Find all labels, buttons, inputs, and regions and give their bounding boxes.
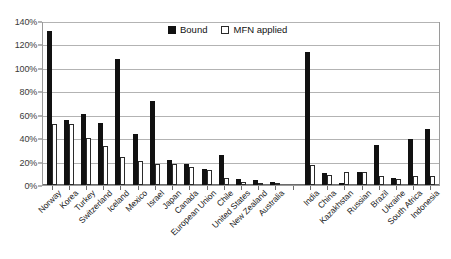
bar-mfn-applied: [138, 161, 143, 185]
bar-mfn-applied: [362, 172, 367, 185]
bar-mfn-applied: [258, 183, 263, 185]
bar-group: [336, 23, 353, 185]
bar-group: [284, 23, 301, 185]
y-axis: 0%20%40%60%80%100%120%140%: [0, 22, 42, 186]
bar-mfn-applied: [52, 124, 57, 185]
y-axis-tick-label: 60%: [20, 111, 37, 121]
bar-group: [112, 23, 129, 185]
bars-layer: [43, 23, 439, 185]
bar-group: [387, 23, 404, 185]
bar-mfn-applied: [120, 157, 125, 185]
legend-label-mfn-applied: MFN applied: [233, 24, 287, 35]
bar-group: [250, 23, 267, 185]
bar-group: [267, 23, 284, 185]
bar-mfn-applied: [413, 176, 418, 185]
bar-mfn-applied: [275, 183, 280, 185]
legend-item-mfn-applied: MFN applied: [221, 24, 287, 35]
bar-mfn-applied: [155, 164, 160, 185]
bar-group: [405, 23, 422, 185]
bar-mfn-applied: [189, 167, 194, 186]
bar-group: [422, 23, 439, 185]
bar-group: [370, 23, 387, 185]
bar-group: [198, 23, 215, 185]
bar-group: [353, 23, 370, 185]
bar-mfn-applied: [69, 124, 74, 185]
bar-group: [301, 23, 318, 185]
bar-mfn-applied: [396, 179, 401, 185]
y-axis-tick-label: 20%: [20, 158, 37, 168]
bar-mfn-applied: [86, 138, 91, 185]
bar-group: [129, 23, 146, 185]
bar-mfn-applied: [172, 164, 177, 185]
bar-chart: 0%20%40%60%80%100%120%140% NorwayKoreaTu…: [0, 0, 451, 259]
bar-mfn-applied: [207, 170, 212, 185]
legend-label-bound: Bound: [180, 24, 207, 35]
bar-mfn-applied: [103, 146, 108, 185]
bar-mfn-applied: [327, 175, 332, 185]
bar-mfn-applied: [241, 182, 246, 185]
y-axis-tick-label: 40%: [20, 134, 37, 144]
bar-group: [232, 23, 249, 185]
bar-mfn-applied: [430, 176, 435, 185]
bar-mfn-applied: [379, 176, 384, 185]
bar-mfn-applied: [224, 178, 229, 185]
bar-mfn-applied: [310, 165, 315, 185]
filled-square-icon: [168, 26, 176, 34]
legend-item-bound: Bound: [168, 24, 207, 35]
bar-group: [146, 23, 163, 185]
bar-group: [164, 23, 181, 185]
y-axis-tick-label: 120%: [15, 40, 37, 50]
bar-group: [181, 23, 198, 185]
bar-mfn-applied: [344, 172, 349, 185]
bar-group: [215, 23, 232, 185]
y-axis-tick-label: 80%: [20, 87, 37, 97]
bar-group: [77, 23, 94, 185]
bar-group: [95, 23, 112, 185]
x-axis-labels: NorwayKoreaTurkeySwitzerlandIcelandMexic…: [0, 188, 451, 259]
chart-legend: Bound MFN applied: [168, 24, 287, 35]
bar-group: [318, 23, 335, 185]
outlined-square-icon: [221, 26, 229, 34]
y-axis-tick-label: 140%: [15, 17, 37, 27]
bar-group: [60, 23, 77, 185]
y-axis-tick-label: 100%: [15, 64, 37, 74]
bar-group: [43, 23, 60, 185]
